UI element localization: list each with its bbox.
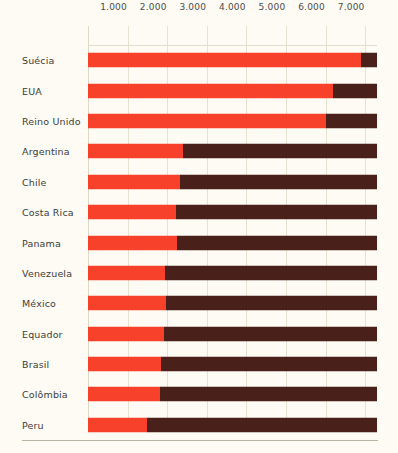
- category-label-méxico: México: [22, 298, 56, 309]
- bar-segment-segmento-escuro: [361, 53, 377, 68]
- stacked-bar: [88, 296, 377, 311]
- bar-segment-segmento-escuro: [180, 174, 377, 189]
- category-label-brasil: Brasil: [22, 359, 49, 370]
- stacked-bar: [88, 265, 377, 280]
- category-label-peru: Peru: [22, 419, 44, 430]
- chart-row: Suécia: [0, 45, 398, 75]
- category-label-equador: Equador: [22, 328, 63, 339]
- x-tick-label: 4.000: [219, 2, 246, 12]
- chart-row: Argentina: [0, 136, 398, 166]
- bar-segment-segmento-escuro: [183, 144, 377, 159]
- chart-row: Reino Unido: [0, 106, 398, 136]
- chart-row: México: [0, 288, 398, 318]
- category-label-costa-rica: Costa Rica: [22, 207, 74, 218]
- x-axis-tick-band: [88, 26, 377, 46]
- bar-segment-segmento-vermelho: [88, 357, 161, 372]
- chart-row: EUA: [0, 75, 398, 105]
- chart-row: Chile: [0, 167, 398, 197]
- bar-segment-segmento-vermelho: [88, 144, 183, 159]
- chart-row: Costa Rica: [0, 197, 398, 227]
- x-tick-label: 6.000: [298, 2, 325, 12]
- bar-segment-segmento-vermelho: [88, 83, 333, 98]
- chart-row: Colômbia: [0, 379, 398, 409]
- chart-row: Brasil: [0, 349, 398, 379]
- chart-row: Peru: [0, 410, 398, 440]
- category-label-argentina: Argentina: [22, 146, 70, 157]
- bar-segment-segmento-escuro: [326, 113, 377, 128]
- x-tick-label: 7.000: [338, 2, 365, 12]
- category-label-colômbia: Colômbia: [22, 389, 68, 400]
- bar-segment-segmento-vermelho: [88, 53, 361, 68]
- chart-row: Panama: [0, 227, 398, 257]
- stacked-bar: [88, 357, 377, 372]
- bar-segment-segmento-escuro: [161, 357, 377, 372]
- stacked-bar: [88, 235, 377, 250]
- bar-segment-segmento-vermelho: [88, 265, 165, 280]
- bar-segment-segmento-vermelho: [88, 235, 177, 250]
- bar-segment-segmento-vermelho: [88, 174, 180, 189]
- stacked-bar: [88, 113, 377, 128]
- bar-segment-segmento-escuro: [164, 326, 377, 341]
- x-tick-label: 2.000: [140, 2, 167, 12]
- category-label-reino-unido: Reino Unido: [22, 115, 81, 126]
- stacked-bar: [88, 53, 377, 68]
- bar-segment-segmento-escuro: [176, 205, 377, 220]
- bar-segment-segmento-vermelho: [88, 417, 147, 432]
- category-label-suécia: Suécia: [22, 55, 54, 66]
- bar-segment-segmento-vermelho: [88, 296, 166, 311]
- stacked-bar: [88, 205, 377, 220]
- bar-segment-segmento-escuro: [147, 417, 377, 432]
- stacked-bar: [88, 174, 377, 189]
- bar-segment-segmento-escuro: [166, 296, 377, 311]
- category-label-venezuela: Venezuela: [22, 267, 72, 278]
- bar-segment-segmento-escuro: [165, 265, 377, 280]
- bar-segment-segmento-vermelho: [88, 205, 176, 220]
- stacked-bar: [88, 144, 377, 159]
- bar-segment-segmento-vermelho: [88, 113, 326, 128]
- bar-segment-segmento-escuro: [177, 235, 377, 250]
- bar-segment-segmento-escuro: [160, 387, 377, 402]
- stacked-bar-chart: 1.0002.0003.0004.0005.0006.0007.000 Suéc…: [0, 0, 398, 453]
- category-label-panama: Panama: [22, 237, 61, 248]
- category-label-eua: EUA: [22, 85, 42, 96]
- category-label-chile: Chile: [22, 176, 47, 187]
- bar-segment-segmento-vermelho: [88, 387, 160, 402]
- stacked-bar: [88, 387, 377, 402]
- stacked-bar: [88, 326, 377, 341]
- chart-row: Equador: [0, 319, 398, 349]
- x-tick-label: 3.000: [179, 2, 206, 12]
- stacked-bar: [88, 83, 377, 98]
- footer-divider: [22, 440, 378, 441]
- bar-segment-segmento-vermelho: [88, 326, 164, 341]
- bar-segment-segmento-escuro: [333, 83, 377, 98]
- stacked-bar: [88, 417, 377, 432]
- x-tick-label: 5.000: [259, 2, 286, 12]
- chart-row: Venezuela: [0, 258, 398, 288]
- x-tick-label: 1.000: [100, 2, 127, 12]
- chart-rows: SuéciaEUAReino UnidoArgentinaChileCosta …: [0, 45, 398, 440]
